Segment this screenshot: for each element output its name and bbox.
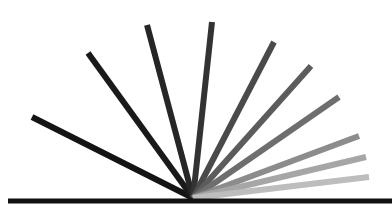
ray-fan-diagram [0,0,392,216]
ray-2 [88,53,193,198]
ray-group [32,22,369,198]
ray-3 [147,25,193,198]
ray-1 [32,117,193,198]
